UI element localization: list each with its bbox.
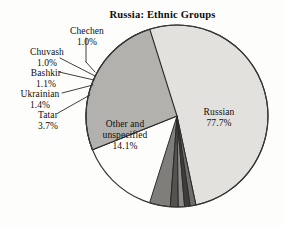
label-tatar: Tatar 3.7% xyxy=(20,110,76,131)
label-russian-name: Russian xyxy=(204,107,235,117)
label-bashkir: Bashkir 1.1% xyxy=(16,68,76,89)
label-ukrainian: Ukrainian 1.4% xyxy=(4,89,76,110)
label-tatar-pct: 3.7% xyxy=(20,121,76,132)
label-other-unspecified: Other and unspecified 14.1% xyxy=(92,119,158,152)
leader-line-chechen-2 xyxy=(86,62,95,72)
label-chuvash-name: Chuvash xyxy=(30,47,64,57)
label-other-line2: unspecified xyxy=(92,130,158,141)
label-other-line1: Other and xyxy=(106,119,145,129)
label-ukrainian-pct: 1.4% xyxy=(4,100,76,111)
label-chechen: Chechen 1.0% xyxy=(58,26,116,47)
label-chuvash-pct: 1.0% xyxy=(18,58,76,69)
label-other-pct: 14.1% xyxy=(92,141,158,152)
label-bashkir-pct: 1.1% xyxy=(16,79,76,90)
pie-chart-figure: Russia: Ethnic Groups xyxy=(0,0,283,227)
label-chuvash: Chuvash 1.0% xyxy=(18,47,76,68)
label-russian: Russian 77.7% xyxy=(190,107,248,129)
label-tatar-name: Tatar xyxy=(38,110,58,120)
label-chechen-pct: 1.0% xyxy=(58,37,116,48)
label-bashkir-name: Bashkir xyxy=(31,68,61,78)
label-ukrainian-name: Ukrainian xyxy=(21,89,60,99)
label-russian-pct: 77.7% xyxy=(190,118,248,129)
label-chechen-name: Chechen xyxy=(70,26,104,36)
